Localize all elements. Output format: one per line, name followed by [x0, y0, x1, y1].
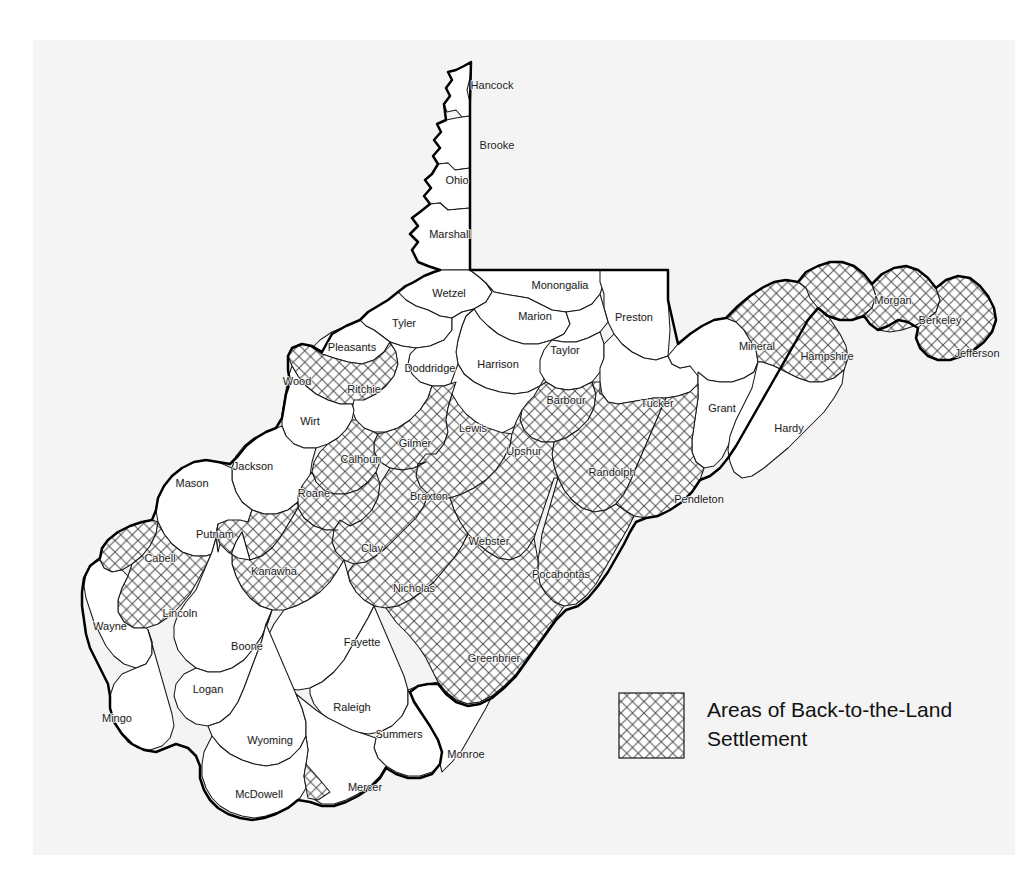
county-label: Barbour — [546, 394, 585, 406]
county-label: Hardy — [774, 422, 804, 434]
county-label: Lewis — [459, 422, 488, 434]
county-label: Raleigh — [333, 701, 370, 713]
county-label: Preston — [615, 311, 653, 323]
county-label: McDowell — [235, 788, 283, 800]
county-label: Monongalia — [532, 279, 590, 291]
county-label: Mason — [175, 477, 208, 489]
county-label: Upshur — [506, 445, 542, 457]
map-legend: Areas of Back-to-the-Land Settlement — [619, 693, 952, 758]
county-label: Monroe — [447, 748, 484, 760]
county-label: Logan — [193, 683, 224, 695]
county-label: Wetzel — [432, 287, 465, 299]
county-label: Webster — [469, 535, 510, 547]
county-label: Summers — [375, 728, 423, 740]
county-label: Wood — [283, 375, 312, 387]
county-label: Ritchie — [347, 383, 381, 395]
county-label: Fayette — [344, 636, 381, 648]
county-label: Mingo — [102, 712, 132, 724]
county-label: Marion — [518, 310, 552, 322]
county-label: Randolph — [588, 466, 635, 478]
county-label: Gilmer — [399, 437, 432, 449]
county-label: Wayne — [93, 620, 127, 632]
county-label: Kanawha — [251, 565, 298, 577]
county-label: Pleasants — [328, 341, 377, 353]
west-virginia-settlement-map: HancockBrookeOhioMarshallWetzelMonongali… — [0, 0, 1030, 894]
map-svg: HancockBrookeOhioMarshallWetzelMonongali… — [0, 0, 1030, 894]
county-label: Berkeley — [919, 314, 962, 326]
county-label: Marshall — [429, 228, 471, 240]
crosshatch-swatch — [619, 693, 684, 758]
county-label: Grant — [708, 402, 736, 414]
county-label: Brooke — [480, 139, 515, 151]
county-label: Taylor — [550, 344, 580, 356]
county-label: Cabell — [144, 552, 175, 564]
county-label: Pocahontas — [532, 568, 591, 580]
county-label: Calhoun — [341, 453, 382, 465]
county-label: Nicholas — [393, 582, 436, 594]
county-label: Doddridge — [405, 362, 456, 374]
legend-line-1: Areas of Back-to-the-Land — [707, 698, 952, 721]
county-label: Tucker — [640, 397, 674, 409]
county-label: Braxton — [410, 490, 448, 502]
county-label: Clay — [361, 542, 384, 554]
county-label: Pendleton — [674, 493, 724, 505]
county-label: Wyoming — [247, 734, 293, 746]
county-label: Jackson — [233, 460, 273, 472]
county-label: Hancock — [471, 79, 514, 91]
county-label: Hampshire — [800, 350, 853, 362]
county-label: Jefferson — [954, 347, 999, 359]
county-label: Ohio — [445, 174, 468, 186]
county-label: Harrison — [477, 358, 519, 370]
county-label: Mercer — [348, 781, 383, 793]
county-label: Putnam — [196, 528, 234, 540]
county-label: Roane — [298, 487, 330, 499]
county-label: Mineral — [739, 340, 775, 352]
county-label: Greenbrier — [468, 652, 521, 664]
county-label: Wirt — [300, 415, 320, 427]
county-label: Boone — [231, 640, 263, 652]
county-label: Lincoln — [163, 607, 198, 619]
legend-line-2: Settlement — [707, 727, 808, 750]
county-label: Morgan — [874, 294, 911, 306]
county-label: Tyler — [392, 317, 416, 329]
